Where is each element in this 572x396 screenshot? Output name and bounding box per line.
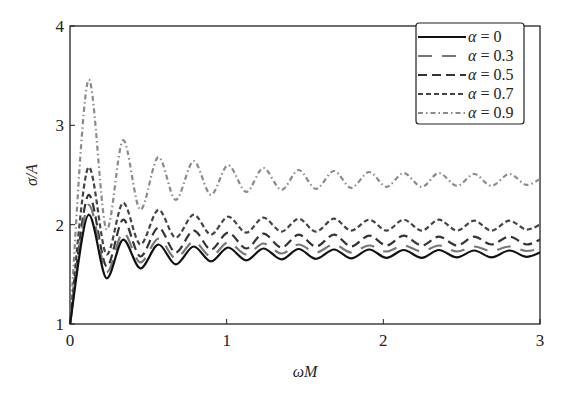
x-tick-label: 3 xyxy=(536,331,545,350)
y-tick-label: 2 xyxy=(56,216,65,235)
legend-label: α = 0.7 xyxy=(468,85,513,102)
legend: α = 0α = 0.3α = 0.5α = 0.7α = 0.9 xyxy=(416,23,524,124)
y-tick-label: 4 xyxy=(56,17,65,36)
x-tick-label: 0 xyxy=(66,331,75,350)
x-tick-label: 1 xyxy=(222,331,231,350)
x-axis-label: ωM xyxy=(293,363,319,380)
legend-label: α = 0 xyxy=(468,28,501,45)
y-axis-label: σ/A xyxy=(23,164,40,186)
y-tick-label: 1 xyxy=(56,315,65,334)
line-chart: 01231234 ωM σ/A α = 0α = 0.3α = 0.5α = 0… xyxy=(0,0,572,396)
legend-label: α = 0.5 xyxy=(468,66,513,83)
x-tick-label: 2 xyxy=(379,331,388,350)
y-tick-label: 3 xyxy=(56,116,65,135)
legend-label: α = 0.9 xyxy=(468,104,513,121)
legend-label: α = 0.3 xyxy=(468,47,513,64)
